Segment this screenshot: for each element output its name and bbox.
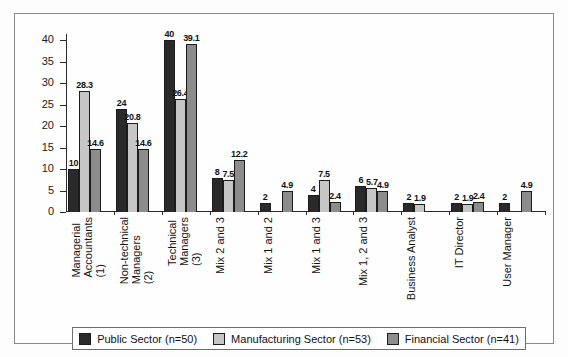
bar-group: 24.9 bbox=[499, 34, 532, 212]
x-axis-category-label: Business Analyst bbox=[405, 217, 417, 300]
legend-item[interactable]: Public Sector (n=50) bbox=[79, 333, 197, 345]
category-label-line: Mix 1 and 2 bbox=[262, 217, 274, 274]
bar[interactable]: 20.8 bbox=[127, 123, 138, 212]
x-axis-category-label: ManagerialAccountants(1) bbox=[70, 217, 106, 278]
category-label-line: Technical bbox=[166, 217, 178, 266]
bar-group: 65.74.9 bbox=[355, 34, 388, 212]
bar[interactable]: 5.7 bbox=[366, 188, 377, 212]
x-axis-tick-mark bbox=[497, 211, 498, 215]
category-label-line: Managers bbox=[178, 217, 190, 266]
y-axis-tick-label: 15 bbox=[42, 141, 54, 153]
y-axis-tick-label: 40 bbox=[42, 33, 54, 45]
y-axis-tick-mark bbox=[60, 212, 66, 213]
bar-value-label: 2 bbox=[263, 192, 268, 202]
bar-value-label: 4 bbox=[311, 184, 316, 194]
bar[interactable]: 24 bbox=[116, 109, 127, 212]
bar-value-label: 14.6 bbox=[87, 138, 103, 148]
x-axis-tick-mark bbox=[258, 211, 259, 215]
bar-group: 47.52.4 bbox=[308, 34, 341, 212]
bar-group: 87.512.2 bbox=[212, 34, 245, 212]
chart-frame: 0510152025303540 1028.314.62420.814.6402… bbox=[14, 13, 554, 344]
bar-group: 21.9 bbox=[403, 34, 436, 212]
y-axis-tick-label: 20 bbox=[42, 119, 54, 131]
bar[interactable]: 26.4 bbox=[175, 99, 186, 212]
category-label-line: User Manager bbox=[501, 217, 513, 287]
x-axis-category-label: Mix 2 and 3 bbox=[214, 217, 226, 274]
bar-value-label: 8 bbox=[215, 167, 220, 177]
bar-group: 1028.314.6 bbox=[68, 34, 101, 212]
bar[interactable]: 28.3 bbox=[79, 91, 90, 212]
bar[interactable]: 14.6 bbox=[138, 149, 149, 212]
legend-label: Manufacturing Sector (n=53) bbox=[231, 333, 371, 345]
chart-legend: Public Sector (n=50)Manufacturing Sector… bbox=[72, 327, 526, 350]
bar[interactable]: 1.9 bbox=[414, 204, 425, 212]
bar-groups: 1028.314.62420.814.64026.439.187.512.224… bbox=[66, 34, 545, 212]
bar[interactable]: 39.1 bbox=[186, 44, 197, 212]
category-label-line: Managerial bbox=[70, 217, 82, 278]
legend-item[interactable]: Financial Sector (n=41) bbox=[387, 333, 519, 345]
x-axis-tick-mark bbox=[401, 211, 402, 215]
x-axis-category-label: Mix 1 and 3 bbox=[310, 217, 322, 274]
x-axis-category-label: Mix 1 and 2 bbox=[262, 217, 274, 274]
legend-item[interactable]: Manufacturing Sector (n=53) bbox=[213, 333, 371, 345]
bar-value-label: 14.6 bbox=[135, 138, 151, 148]
bar[interactable]: 4 bbox=[308, 195, 319, 212]
y-axis-tick-label: 30 bbox=[42, 76, 54, 88]
bar-value-label: 1.9 bbox=[462, 193, 474, 203]
bar[interactable]: 8 bbox=[212, 178, 223, 212]
bar[interactable]: 14.6 bbox=[90, 149, 101, 212]
category-label-line: Mix 1 and 3 bbox=[310, 217, 322, 274]
y-axis-tick-label: 5 bbox=[48, 184, 54, 196]
legend-color-swatch bbox=[387, 333, 399, 345]
bar-value-label: 7.5 bbox=[222, 169, 234, 179]
bar[interactable]: 2 bbox=[499, 203, 510, 212]
bar[interactable]: 40 bbox=[164, 40, 175, 212]
category-label-line: Mix 2 and 3 bbox=[214, 217, 226, 274]
x-axis-category-label: Mix 1, 2 and 3 bbox=[357, 217, 369, 286]
bar-group: 21.92.4 bbox=[451, 34, 484, 212]
y-axis-tick-label: 0 bbox=[48, 205, 54, 217]
legend-color-swatch bbox=[79, 333, 91, 345]
bar[interactable]: 4.9 bbox=[282, 191, 293, 212]
bar[interactable]: 6 bbox=[355, 186, 366, 212]
category-label-line: IT Director bbox=[453, 217, 465, 268]
bar[interactable]: 7.5 bbox=[223, 180, 234, 212]
bar[interactable]: 2 bbox=[260, 203, 271, 212]
x-axis-tick-mark bbox=[449, 211, 450, 215]
bar[interactable]: 2.4 bbox=[473, 202, 484, 212]
legend-label: Financial Sector (n=41) bbox=[405, 333, 519, 345]
bar[interactable]: 2 bbox=[403, 203, 414, 212]
bar-group: 4026.439.1 bbox=[164, 34, 197, 212]
bar-value-label: 2.4 bbox=[473, 191, 485, 201]
category-label-line: Accountants bbox=[82, 217, 94, 278]
bar[interactable]: 12.2 bbox=[234, 160, 245, 212]
bar[interactable]: 1.9 bbox=[462, 204, 473, 212]
bar[interactable]: 2.4 bbox=[330, 202, 341, 212]
x-axis-tick-mark bbox=[114, 211, 115, 215]
legend-label: Public Sector (n=50) bbox=[97, 333, 197, 345]
bar[interactable]: 10 bbox=[68, 169, 79, 212]
x-axis-tick-mark bbox=[162, 211, 163, 215]
x-axis-category-label: TechnicalManagers(3) bbox=[166, 217, 202, 266]
x-axis-category-label: Non-technicalManagers(2) bbox=[118, 217, 154, 284]
bar-value-label: 7.5 bbox=[318, 169, 330, 179]
legend-color-swatch bbox=[213, 333, 225, 345]
category-label-line: Non-technical bbox=[118, 217, 130, 284]
x-axis-tick-mark bbox=[210, 211, 211, 215]
category-label-line: Business Analyst bbox=[405, 217, 417, 300]
bar-value-label: 2 bbox=[406, 192, 411, 202]
bar-value-label: 5.7 bbox=[366, 177, 378, 187]
bar-value-label: 24 bbox=[117, 98, 126, 108]
bar[interactable]: 7.5 bbox=[319, 180, 330, 212]
bar-value-label: 4.9 bbox=[377, 180, 389, 190]
bar-value-label: 6 bbox=[359, 175, 364, 185]
bar-group: 24.9 bbox=[260, 34, 293, 212]
bar[interactable]: 2 bbox=[451, 203, 462, 212]
category-label-line: (3) bbox=[190, 217, 202, 266]
x-axis-category-label: IT Director bbox=[453, 217, 465, 268]
y-axis-tick-label: 25 bbox=[42, 98, 54, 110]
category-label-line: Managers bbox=[130, 217, 142, 284]
bar[interactable]: 4.9 bbox=[521, 191, 532, 212]
bar[interactable]: 4.9 bbox=[377, 191, 388, 212]
category-label-line: (1) bbox=[94, 217, 106, 278]
